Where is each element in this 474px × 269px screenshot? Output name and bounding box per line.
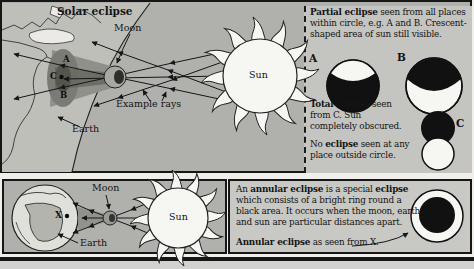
annular-pre: An	[236, 184, 250, 194]
annular-caption-term: Annular eclipse	[236, 237, 310, 247]
total-eclipse-term: Total eclipse	[310, 99, 369, 109]
legend-label-a: A	[309, 52, 317, 64]
partial-eclipse-text: Partial eclipse seen from all places wit…	[310, 7, 468, 40]
total-eclipse-text: Total eclipse seen from C. Sun completel…	[310, 99, 410, 132]
partial-eclipse-b-disc	[406, 58, 462, 114]
no-eclipse-term: eclipse	[325, 139, 358, 149]
sun-label: Sun	[249, 70, 268, 80]
moon-label-bottom: Moon	[92, 183, 119, 193]
moon	[104, 66, 126, 88]
shadow-point-b: B	[60, 90, 67, 100]
partial-eclipse-term: Partial eclipse	[310, 7, 378, 17]
annular-eclipse-paragraph: An annular eclipse is a special eclipse …	[236, 184, 424, 228]
annular-caption-rest: as seen from X.	[310, 237, 379, 247]
moon-small	[103, 211, 117, 225]
earth-globe	[12, 185, 78, 251]
shadow-point-a: A	[63, 54, 70, 64]
textbook-page: Solar eclipse Moon Sun Example rays Eart…	[0, 0, 474, 269]
no-eclipse-disc	[422, 138, 454, 170]
annular-term: annular eclipse	[250, 184, 323, 194]
diagram-title: Solar eclipse	[57, 6, 133, 16]
earth-label-bottom: Earth	[80, 238, 107, 248]
example-rays-label: Example rays	[116, 99, 181, 109]
earth-label: Earth	[72, 124, 99, 134]
x-point-label: X	[55, 210, 62, 220]
diagram-artwork	[0, 0, 474, 269]
sun-label-bottom: Sun	[169, 212, 188, 222]
x-point-dot	[65, 214, 69, 218]
annular-caption: Annular eclipse as seen from X.	[236, 237, 406, 248]
annular-desc: which consists of a bright ring round a …	[236, 195, 420, 227]
no-eclipse-pre: No	[310, 139, 325, 149]
legend-label-c: C	[456, 117, 464, 129]
moon-label: Moon	[114, 23, 141, 33]
eclipse-term: eclipse	[375, 184, 408, 194]
no-eclipse-text: No eclipse seen at any place outside cir…	[310, 139, 412, 161]
shadow-point-c: C	[50, 71, 57, 81]
annular-mid: is a special	[323, 184, 375, 194]
legend-label-b: B	[397, 51, 406, 63]
